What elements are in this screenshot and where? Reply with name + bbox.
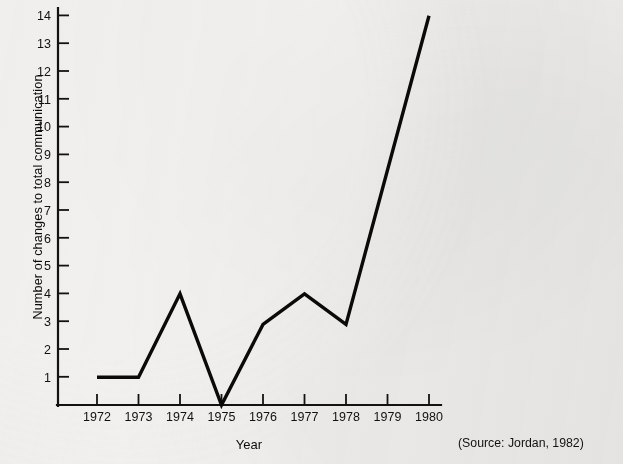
x-axis-title: Year xyxy=(58,437,440,452)
y-tick-label-5: 5 xyxy=(44,259,51,273)
y-tick-label-2: 2 xyxy=(44,343,51,357)
x-tick-label-1977: 1977 xyxy=(291,410,319,424)
x-tick-label-1979: 1979 xyxy=(374,410,402,424)
y-tick-label-3: 3 xyxy=(44,315,51,329)
y-tick-label-6: 6 xyxy=(44,232,51,246)
y-tick-label-14: 14 xyxy=(37,9,51,23)
x-tick-label-1972: 1972 xyxy=(83,410,111,424)
source-note: (Source: Jordan, 1982) xyxy=(458,436,584,450)
x-tick-label-1976: 1976 xyxy=(249,410,277,424)
x-tick-label-1975: 1975 xyxy=(208,410,236,424)
y-tick-label-4: 4 xyxy=(44,287,51,301)
x-tick-label-1978: 1978 xyxy=(332,410,360,424)
y-axis-title: Number of changes to total communication xyxy=(31,32,45,362)
y-tick-label-9: 9 xyxy=(44,148,51,162)
y-tick-label-1: 1 xyxy=(44,371,51,385)
y-tick-label-7: 7 xyxy=(44,204,51,218)
x-tick-label-1974: 1974 xyxy=(166,410,194,424)
data-series-line xyxy=(97,16,429,405)
y-tick-label-8: 8 xyxy=(44,176,51,190)
x-tick-label-1973: 1973 xyxy=(125,410,153,424)
x-axis-ticks: 1972 1973 1974 1975 1976 1977 1978 1979 … xyxy=(83,394,443,424)
x-tick-label-1980: 1980 xyxy=(415,410,443,424)
chart-canvas: 14 13 12 11 10 9 8 7 6 5 4 3 2 xyxy=(0,0,623,464)
line-chart-figure: 14 13 12 11 10 9 8 7 6 5 4 3 2 xyxy=(0,0,623,464)
